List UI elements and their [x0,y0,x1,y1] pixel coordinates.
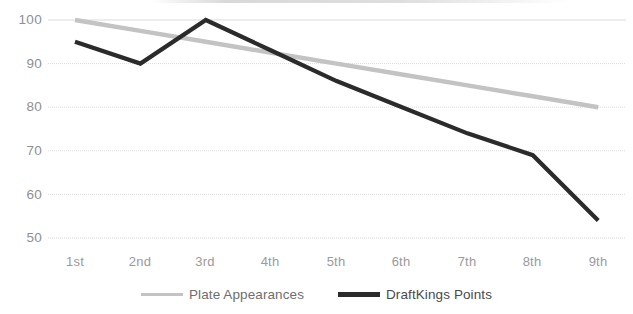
x-tick-label-4th: 4th [244,255,296,268]
y-tick-label-90: 90 [8,57,42,71]
legend-item-draftkings-points[interactable]: DraftKings Points [338,288,492,302]
y-tick-label-100: 100 [8,13,42,27]
gridlines [48,20,626,238]
series-line-draftkings-points [75,20,598,221]
legend-label-plate-appearances: Plate Appearances [189,288,304,302]
x-tick-label-1st: 1st [49,255,101,268]
y-tick-label-70: 70 [8,144,42,158]
x-tick-label-7th: 7th [441,255,493,268]
y-tick-label-50: 50 [8,231,42,245]
x-tick-label-9th: 9th [572,255,624,268]
x-tick-label-5th: 5th [310,255,362,268]
legend-label-draftkings-points: DraftKings Points [386,288,492,302]
line-chart: 100 90 80 70 60 50 1st 2nd 3rd 4th 5th 6… [0,0,633,314]
legend-line-icon-plate-appearances [141,293,183,296]
y-tick-label-80: 80 [8,100,42,114]
x-tick-label-6th: 6th [375,255,427,268]
series-line-plate-appearances [75,20,598,107]
x-tick-label-3rd: 3rd [179,255,231,268]
chart-legend: Plate Appearances DraftKings Points [0,288,633,302]
x-tick-label-2nd: 2nd [114,255,166,268]
y-tick-label-60: 60 [8,188,42,202]
x-tick-label-8th: 8th [506,255,558,268]
legend-item-plate-appearances[interactable]: Plate Appearances [141,288,304,302]
legend-line-icon-draftkings-points [338,292,380,297]
